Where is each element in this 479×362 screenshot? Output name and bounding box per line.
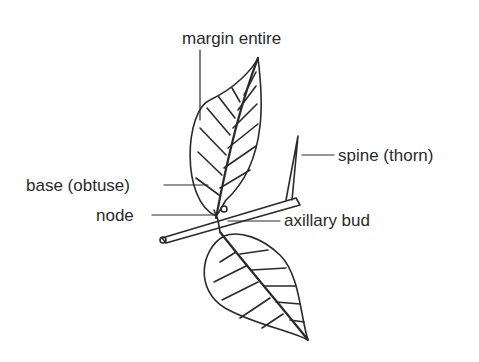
label-node: node: [96, 207, 134, 224]
label-axillary-bud: axillary bud: [284, 212, 370, 229]
leaf-diagram: margin entire spine (thorn) base (obtuse…: [0, 0, 479, 362]
label-margin-entire: margin entire: [182, 30, 281, 47]
axillary-bud-shape: [221, 206, 227, 212]
label-spine: spine (thorn): [338, 147, 433, 164]
label-base: base (obtuse): [26, 177, 130, 194]
spine: [286, 136, 298, 200]
lower-leaf: [204, 232, 308, 340]
upper-leaf: [190, 58, 261, 232]
